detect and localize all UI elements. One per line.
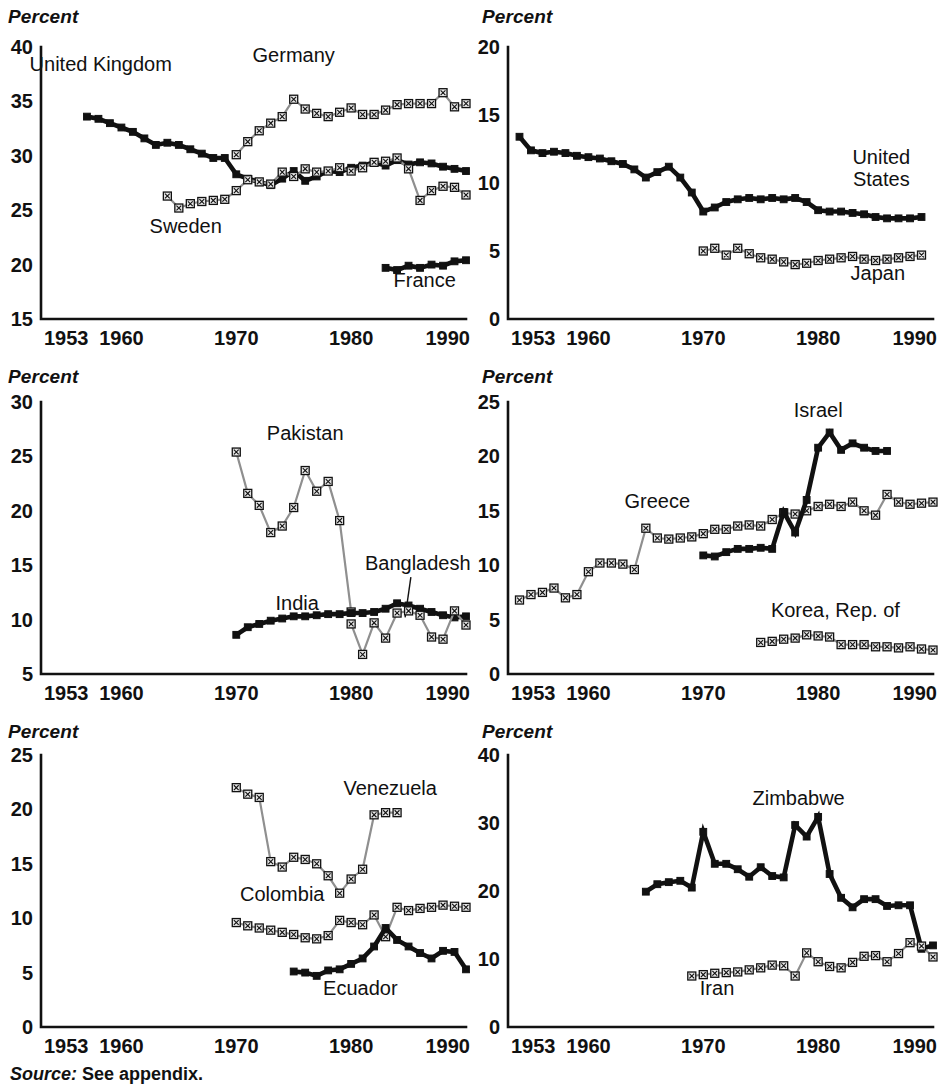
data-point-marker	[382, 605, 389, 612]
series-line-zimbabwe	[646, 817, 933, 949]
x-tick-label: 1960	[566, 682, 611, 704]
data-point-marker	[302, 177, 309, 184]
x-tick-label: 1980	[329, 1035, 374, 1057]
data-point-marker	[861, 444, 868, 451]
x-tick-label: 1990	[893, 1035, 938, 1057]
data-point-marker	[551, 148, 558, 155]
data-point-marker	[780, 874, 787, 881]
data-point-marker	[757, 544, 764, 551]
data-point-marker	[348, 610, 355, 617]
data-point-marker	[757, 864, 764, 871]
source-text: See appendix.	[82, 1064, 203, 1084]
data-point-marker	[440, 262, 447, 269]
source-note: Source: See appendix.	[10, 1064, 203, 1085]
data-point-marker	[313, 972, 320, 979]
data-point-marker	[849, 210, 856, 217]
x-tick-label: 1970	[681, 682, 726, 704]
data-point-marker	[907, 215, 914, 222]
axis-unit-label-panel-6: Percent	[482, 721, 552, 743]
data-point-marker	[907, 902, 914, 909]
series-label-zimbabwe: Zimbabwe	[752, 787, 844, 809]
series-label-israel: Israel	[794, 399, 843, 421]
data-point-marker	[141, 135, 148, 142]
data-point-marker	[930, 942, 937, 949]
series-label-united-kingdom: United Kingdom	[30, 53, 172, 75]
series-label-india: India	[275, 592, 319, 614]
x-tick-label: 1953	[44, 682, 89, 704]
data-point-marker	[803, 497, 810, 504]
data-point-marker	[769, 195, 776, 202]
data-point-marker	[815, 444, 822, 451]
data-point-marker	[290, 613, 297, 620]
y-tick-label: 5	[489, 609, 500, 631]
data-point-marker	[826, 871, 833, 878]
y-tick-label: 10	[478, 172, 500, 194]
data-point-marker	[336, 966, 343, 973]
data-point-marker	[394, 600, 401, 607]
axis-unit-label-panel-5: Percent	[8, 721, 78, 743]
data-point-marker	[325, 611, 332, 618]
data-point-marker	[302, 969, 309, 976]
series-markers-pakistan	[232, 448, 355, 616]
y-tick-label: 0	[489, 663, 500, 685]
data-point-marker	[642, 174, 649, 181]
data-point-marker	[711, 553, 718, 560]
data-point-marker	[734, 196, 741, 203]
y-tick-label: 20	[11, 254, 33, 276]
figure-panel-grid: Percent 15202530354019531960197019801990…	[0, 0, 949, 1092]
y-tick-label: 20	[11, 798, 33, 820]
data-point-marker	[440, 947, 447, 954]
chart-panel-4: 051015202519531960197019801990GreeceIsra…	[474, 360, 949, 715]
data-point-marker	[895, 215, 902, 222]
panel-middle-east-asia: Percent 051015202519531960197019801990Gr…	[474, 360, 949, 715]
y-tick-label: 5	[22, 962, 33, 984]
data-point-marker	[129, 128, 136, 135]
y-tick-label: 25	[11, 744, 33, 766]
data-point-marker	[861, 896, 868, 903]
panel-south-asia: Percent 5101520253019531960197019801990P…	[0, 360, 475, 715]
data-point-marker	[84, 113, 91, 120]
data-point-marker	[428, 609, 435, 616]
data-point-marker	[428, 955, 435, 962]
data-point-marker	[826, 429, 833, 436]
data-point-marker	[631, 166, 638, 173]
data-point-marker	[210, 155, 217, 162]
data-point-marker	[440, 163, 447, 170]
data-point-marker	[463, 168, 470, 175]
data-point-marker	[463, 613, 470, 620]
data-point-marker	[746, 545, 753, 552]
data-point-marker	[826, 208, 833, 215]
data-point-marker	[175, 142, 182, 149]
data-point-marker	[562, 150, 569, 157]
data-point-marker	[700, 208, 707, 215]
series-line-united-kingdom	[87, 117, 466, 186]
y-tick-label: 15	[478, 104, 500, 126]
data-point-marker	[884, 215, 891, 222]
axis-unit-label-panel-2: Percent	[482, 6, 552, 28]
series-label-pakistan: Pakistan	[267, 422, 344, 444]
data-point-marker	[654, 881, 661, 888]
data-point-marker	[803, 199, 810, 206]
data-point-marker	[187, 146, 194, 153]
x-tick-label: 1990	[893, 682, 938, 704]
data-point-marker	[803, 833, 810, 840]
data-point-marker	[677, 877, 684, 884]
data-point-marker	[451, 165, 458, 172]
data-point-marker	[539, 150, 546, 157]
data-point-marker	[382, 264, 389, 271]
x-tick-label: 1970	[214, 682, 259, 704]
data-point-marker	[516, 133, 523, 140]
data-point-marker	[198, 150, 205, 157]
data-point-marker	[861, 211, 868, 218]
series-markers-iran	[688, 939, 937, 980]
data-point-marker	[872, 214, 879, 221]
data-point-marker	[302, 613, 309, 620]
series-label-sweden: Sweden	[150, 215, 222, 237]
data-point-marker	[244, 624, 251, 631]
data-point-marker	[428, 261, 435, 268]
x-tick-label: 1960	[99, 327, 144, 349]
x-tick-label: 1960	[99, 682, 144, 704]
data-point-marker	[723, 199, 730, 206]
data-point-marker	[792, 529, 799, 536]
data-point-marker	[596, 155, 603, 162]
